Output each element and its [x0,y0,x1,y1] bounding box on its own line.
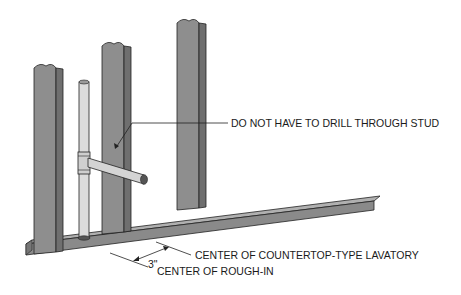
stud-note-label: DO NOT HAVE TO DRILL THROUGH STUD [231,117,440,129]
framing-diagram: DO NOT HAVE TO DRILL THROUGH STUD 3" CEN… [0,0,461,295]
stud-middle [102,42,131,234]
rough-in-center-label: CENTER OF ROUGH-IN [157,265,274,277]
stud-left [34,64,63,254]
lavatory-center-label: CENTER OF COUNTERTOP-TYPE LAVATORY [195,249,419,261]
stud-right [177,19,206,210]
